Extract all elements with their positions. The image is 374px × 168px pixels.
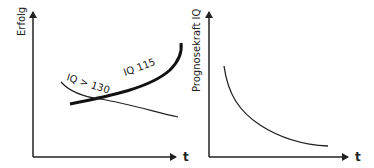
left-chart: Erfolg t IQ 115 IQ > 130 [16, 7, 189, 164]
right-x-label: t [355, 150, 361, 164]
label-iq-115: IQ 115 [122, 56, 157, 78]
curve-iq-130 [61, 82, 178, 117]
left-x-label: t [183, 150, 189, 164]
right-chart: Prognosekraft IQ t [191, 9, 361, 164]
diagram: Erfolg t IQ 115 IQ > 130 Prognosekraft I… [0, 0, 374, 168]
curve-prognosekraft [224, 66, 328, 146]
label-iq-130: IQ > 130 [65, 71, 111, 95]
left-y-label: Erfolg [16, 7, 27, 36]
right-y-label: Prognosekraft IQ [191, 9, 202, 92]
